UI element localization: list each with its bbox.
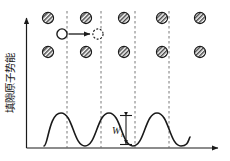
lattice-atom (156, 46, 167, 57)
lattice-atom (80, 12, 91, 23)
lattice-atom (156, 12, 167, 23)
lattice-atom (194, 46, 205, 57)
interstitial-atom-start (57, 29, 67, 39)
lattice-atom (42, 12, 53, 23)
lattice-atom (118, 46, 129, 57)
barrier-label-group: W i (112, 125, 123, 138)
lattice-atom (80, 46, 91, 57)
lattice-atom (194, 12, 205, 23)
lattice-atom (118, 12, 129, 23)
lattice-atom (42, 46, 53, 57)
y-axis-label-group: 填隙原子势能 (4, 52, 16, 113)
axes-group (27, 18, 219, 148)
interstitial-atom-end (93, 29, 103, 39)
interstitial-potential-energy-figure: 填隙原子势能 (0, 0, 230, 161)
y-axis-label: 填隙原子势能 (4, 52, 16, 113)
barrier-subscript-label: i (121, 131, 123, 138)
